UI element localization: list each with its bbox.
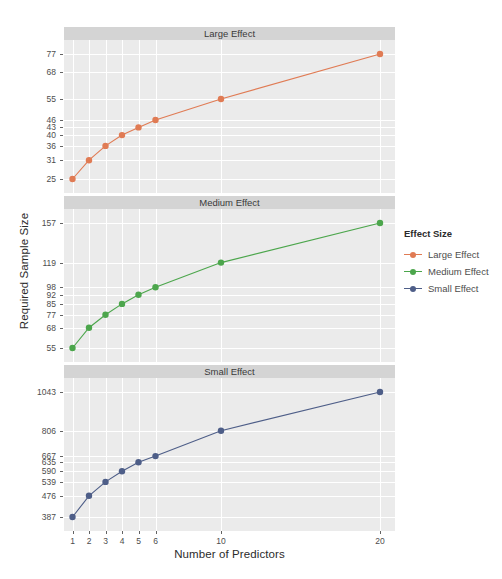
- y-axis-tick-label: 539: [0, 478, 56, 486]
- y-axis-tick-mark: [60, 287, 63, 288]
- y-axis-tick-label: 157: [0, 219, 56, 227]
- y-axis-tick-mark: [60, 72, 63, 73]
- y-axis-tick-label: 92: [0, 291, 56, 299]
- data-point: [86, 493, 92, 499]
- legend-item-medium-effect[interactable]: Medium Effect: [404, 263, 500, 280]
- x-axis-tick-label: 2: [87, 536, 92, 546]
- y-axis-tick-mark: [60, 456, 63, 457]
- y-axis-tick-mark: [60, 482, 63, 483]
- data-point: [218, 428, 224, 434]
- y-axis-tick-mark: [60, 223, 63, 224]
- panel-region-large-effect: [64, 40, 395, 193]
- y-axis-tick-mark: [60, 471, 63, 472]
- data-point: [135, 124, 141, 130]
- y-axis-tick-label: 635: [0, 458, 56, 466]
- data-point: [152, 284, 158, 290]
- data-point: [102, 143, 108, 149]
- y-axis-tick-mark: [60, 431, 63, 432]
- x-axis-tick-label: 1: [70, 536, 75, 546]
- x-axis-tick-mark: [106, 531, 107, 534]
- x-axis-tick-mark: [89, 531, 90, 534]
- data-point: [218, 96, 224, 102]
- y-axis-tick-mark: [60, 496, 63, 497]
- y-axis-tick-mark: [60, 348, 63, 349]
- legend-item-label: Large Effect: [428, 249, 479, 260]
- x-axis-tick-mark: [122, 531, 123, 534]
- legend-item-large-effect[interactable]: Large Effect: [404, 246, 500, 263]
- data-point: [152, 453, 158, 459]
- y-axis-tick-label: 77: [0, 50, 56, 58]
- legend-key-icon: [404, 249, 422, 261]
- y-axis-tick-mark: [60, 315, 63, 316]
- y-axis-tick-mark: [60, 263, 63, 264]
- legend-key-icon: [404, 266, 422, 278]
- x-axis-tick-label: 10: [216, 536, 225, 546]
- y-axis-tick-mark: [60, 517, 63, 518]
- y-axis-tick-label: 31: [0, 156, 56, 164]
- y-axis-tick-mark: [60, 160, 63, 161]
- panel-region-medium-effect: [64, 209, 395, 362]
- data-point: [102, 312, 108, 318]
- y-axis-tick-label: 590: [0, 467, 56, 475]
- data-point: [377, 389, 383, 395]
- data-point: [86, 157, 92, 163]
- y-axis-tick-mark: [60, 392, 63, 393]
- y-axis-tick-mark: [60, 179, 63, 180]
- y-axis-tick-label: 476: [0, 492, 56, 500]
- y-axis-tick-label: 119: [0, 259, 56, 267]
- chart-plot-area: Required Sample Size Number of Predictor…: [0, 0, 502, 579]
- panel-strip-medium-effect: Medium Effect: [64, 196, 395, 209]
- x-axis-tick-label: 4: [120, 536, 125, 546]
- x-axis-tick-mark: [139, 531, 140, 534]
- y-axis-tick-label: 77: [0, 311, 56, 319]
- y-axis-tick-label: 68: [0, 68, 56, 76]
- x-axis-tick-mark: [380, 531, 381, 534]
- series-line-small-effect: [64, 378, 395, 531]
- panel-region-small-effect: [64, 378, 395, 531]
- y-axis-tick-label: 806: [0, 427, 56, 435]
- x-axis-tick-mark: [156, 531, 157, 534]
- data-point: [69, 514, 75, 520]
- panel-strip-small-effect: Small Effect: [64, 365, 395, 378]
- data-point: [69, 345, 75, 351]
- x-axis: 1234561020: [64, 531, 395, 551]
- series-line-large-effect: [64, 40, 395, 193]
- data-point: [102, 479, 108, 485]
- data-point: [218, 259, 224, 265]
- x-axis-tick-label: 5: [136, 536, 141, 546]
- legend-items: Large EffectMedium EffectSmall Effect: [404, 246, 500, 297]
- legend-item-label: Medium Effect: [428, 266, 489, 277]
- data-point: [119, 301, 125, 307]
- data-point: [152, 117, 158, 123]
- legend-key-icon: [404, 283, 422, 295]
- y-axis-tick-mark: [60, 127, 63, 128]
- legend-title: Effect Size: [404, 228, 500, 239]
- y-axis-tick-mark: [60, 120, 63, 121]
- y-axis-tick-label: 55: [0, 344, 56, 352]
- data-point: [135, 292, 141, 298]
- x-axis-tick-mark: [73, 531, 74, 534]
- series-line-medium-effect: [64, 209, 395, 362]
- x-axis-tick-label: 6: [153, 536, 158, 546]
- y-axis-tick-mark: [60, 135, 63, 136]
- panel-strip-large-effect: Large Effect: [64, 27, 395, 40]
- data-point: [86, 325, 92, 331]
- data-point: [377, 51, 383, 57]
- y-axis-tick-mark: [60, 295, 63, 296]
- y-axis-tick-mark: [60, 328, 63, 329]
- data-point: [135, 459, 141, 465]
- data-point: [119, 132, 125, 138]
- data-point: [119, 468, 125, 474]
- y-axis-tick-label: 68: [0, 324, 56, 332]
- chart-legend: Effect Size Large EffectMedium EffectSma…: [404, 228, 500, 297]
- data-point: [377, 220, 383, 226]
- y-axis-tick-mark: [60, 462, 63, 463]
- y-axis-tick-label: 1043: [0, 388, 56, 396]
- y-axis-tick-label: 40: [0, 131, 56, 139]
- x-axis-tick-label: 3: [103, 536, 108, 546]
- legend-item-label: Small Effect: [428, 283, 479, 294]
- y-axis-title: Required Sample Size: [18, 181, 30, 361]
- y-axis-tick-mark: [60, 54, 63, 55]
- legend-item-small-effect[interactable]: Small Effect: [404, 280, 500, 297]
- y-axis-tick-label: 85: [0, 300, 56, 308]
